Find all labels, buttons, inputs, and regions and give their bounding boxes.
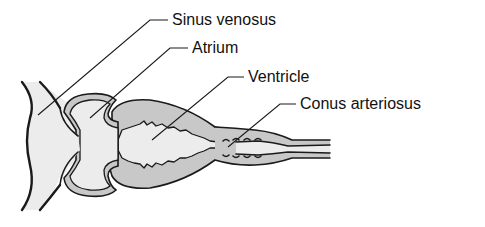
atrium-shape [60, 94, 118, 197]
conus-arteriosus-shape [215, 127, 330, 165]
label-sinus-venosus: Sinus venosus [172, 11, 276, 29]
label-conus-arteriosus: Conus arteriosus [300, 95, 421, 113]
label-ventricle: Ventricle [248, 68, 309, 86]
label-atrium: Atrium [192, 39, 238, 57]
heart-diagram: Sinus venosus Atrium Ventricle Conus art… [0, 0, 485, 227]
heart-illustration [0, 0, 485, 227]
